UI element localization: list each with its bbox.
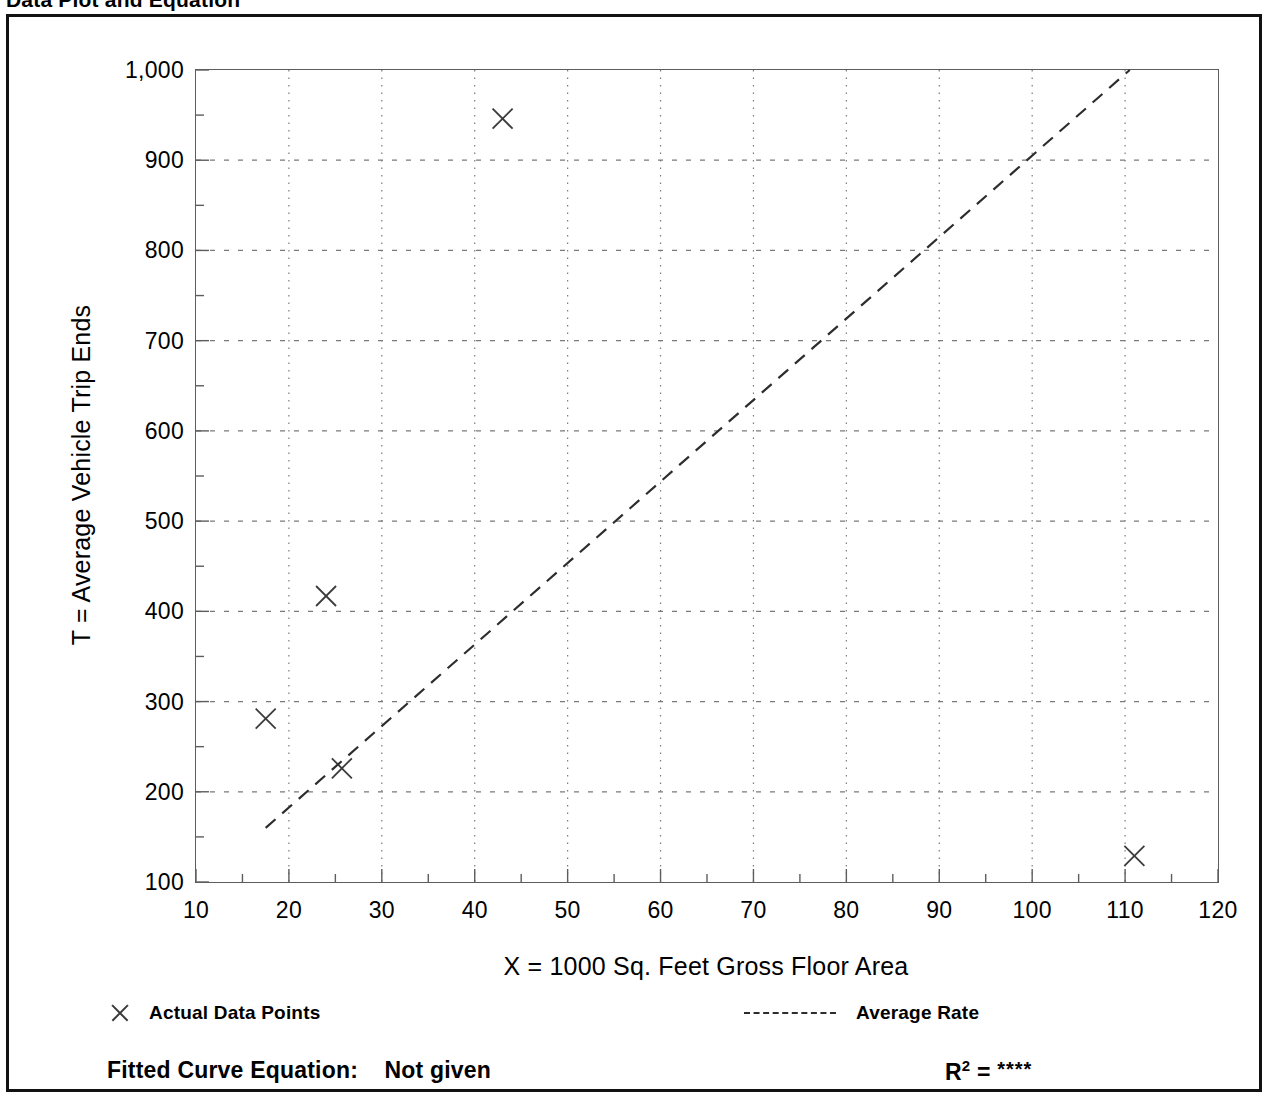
x-tick-label-20: 20 xyxy=(276,897,302,924)
y-tick-label-700: 700 xyxy=(145,327,184,354)
x-tick-label-110: 110 xyxy=(1106,897,1144,924)
r-squared-stars: **** xyxy=(997,1058,1032,1080)
fitted-curve-equation-value: Not given xyxy=(384,1057,491,1083)
y-tick-label-900: 900 xyxy=(145,147,184,174)
legend-label-actual-data-points: Actual Data Points xyxy=(149,1002,320,1024)
y-tick-label-600: 600 xyxy=(145,417,184,444)
x-tick-label-40: 40 xyxy=(462,897,488,924)
x-tick-label-10: 10 xyxy=(183,897,209,924)
y-tick-label-800: 800 xyxy=(145,237,184,264)
page-header: Data Plot and Equation xyxy=(0,0,1272,14)
x-tick-label-100: 100 xyxy=(1013,897,1052,924)
r-squared-equals: = xyxy=(970,1059,997,1085)
x-tick-label-120: 120 xyxy=(1198,897,1237,924)
chart-legend: Actual Data Points Average Rate xyxy=(9,1002,1259,1036)
x-tick-label-60: 60 xyxy=(647,897,673,924)
y-tick-label-300: 300 xyxy=(145,688,184,715)
r-squared-value: R2 = **** xyxy=(945,1057,1032,1086)
x-tick-label-70: 70 xyxy=(740,897,766,924)
y-tick-label-100: 100 xyxy=(145,869,184,896)
plot-area: 1002003004005006007008009001,000 1020304… xyxy=(195,69,1219,883)
x-tick-label-90: 90 xyxy=(926,897,952,924)
page-title: Data Plot and Equation xyxy=(6,0,240,12)
legend-item-average-rate: Average Rate xyxy=(744,1002,979,1024)
legend-label-average-rate: Average Rate xyxy=(856,1002,979,1024)
plot-series-layer xyxy=(196,70,1218,882)
y-tick-label-200: 200 xyxy=(145,778,184,805)
y-axis-title: T = Average Vehicle Trip Ends xyxy=(67,69,97,881)
x-axis-title: X = 1000 Sq. Feet Gross Floor Area xyxy=(195,952,1217,981)
figure-frame: T = Average Vehicle Trip Ends 1002003004… xyxy=(6,14,1262,1092)
y-tick-label-1000: 1,000 xyxy=(125,57,184,84)
y-tick-label-500: 500 xyxy=(145,508,184,535)
fitted-curve-equation-label: Fitted Curve Equation: xyxy=(107,1057,358,1083)
equation-row: Fitted Curve Equation: Not given R2 = **… xyxy=(9,1057,1259,1091)
x-tick-label-80: 80 xyxy=(833,897,859,924)
x-marker-icon xyxy=(109,1002,131,1024)
y-tick-label-400: 400 xyxy=(145,598,184,625)
legend-item-actual-data-points: Actual Data Points xyxy=(109,1002,320,1024)
fitted-curve-equation: Fitted Curve Equation: Not given xyxy=(107,1057,491,1084)
x-tick-label-30: 30 xyxy=(369,897,395,924)
r-squared-label: R xyxy=(945,1059,962,1085)
x-tick-label-50: 50 xyxy=(555,897,581,924)
dashed-line-icon xyxy=(744,1012,836,1014)
